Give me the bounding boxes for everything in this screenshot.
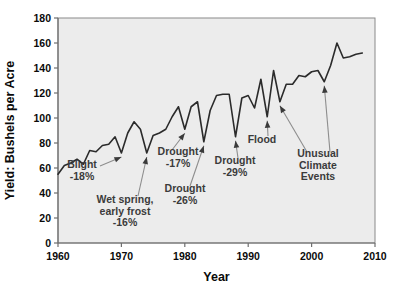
annotation-unusual-climate: UnusualClimateEvents bbox=[297, 147, 339, 182]
y-tick-label: 40 bbox=[39, 187, 51, 199]
y-tick-label: 140 bbox=[33, 62, 51, 74]
annotation-line: Flood bbox=[248, 133, 277, 145]
annotation-line: Climate bbox=[299, 159, 337, 171]
annotation-line: early frost bbox=[100, 205, 151, 217]
x-tick-label: 2010 bbox=[363, 250, 387, 262]
x-tick-label: 1960 bbox=[46, 250, 70, 262]
yield-line-chart: 020406080100120140160180 196019701980199… bbox=[0, 0, 393, 286]
y-axis-tick-labels: 020406080100120140160180 bbox=[33, 12, 51, 249]
annotation-line: Wet spring, bbox=[97, 193, 154, 205]
annotation-flood: Flood bbox=[248, 133, 277, 145]
y-tick-label: 20 bbox=[39, 212, 51, 224]
annotation-line: -16% bbox=[113, 216, 138, 228]
x-tick-label: 2000 bbox=[300, 250, 324, 262]
y-tick-label: 80 bbox=[39, 137, 51, 149]
y-tick-label: 180 bbox=[33, 12, 51, 24]
chart-container: 020406080100120140160180 196019701980199… bbox=[0, 0, 393, 286]
x-axis-title: Year bbox=[203, 270, 230, 284]
y-tick-label: 100 bbox=[33, 112, 51, 124]
x-tick-label: 1980 bbox=[173, 250, 197, 262]
annotation-line: -26% bbox=[173, 194, 198, 206]
x-axis-tick-labels: 196019701980199020002010 bbox=[46, 250, 387, 262]
annotation-line: Drought bbox=[158, 145, 199, 157]
y-tick-label: 120 bbox=[33, 87, 51, 99]
annotation-line: -18% bbox=[70, 170, 95, 182]
annotation-line: Drought bbox=[215, 154, 256, 166]
annotation-line: Drought bbox=[165, 182, 206, 194]
x-axis-ticks bbox=[58, 243, 375, 247]
annotation-line: -17% bbox=[166, 157, 191, 169]
x-tick-label: 1970 bbox=[110, 250, 134, 262]
annotation-line: Unusual bbox=[297, 147, 339, 159]
annotation-line: -29% bbox=[223, 166, 248, 178]
annotation-blight: Blight-18% bbox=[67, 158, 97, 182]
x-tick-label: 1990 bbox=[237, 250, 261, 262]
y-axis-title: Yield: Bushels per Acre bbox=[3, 61, 17, 200]
y-tick-label: 60 bbox=[39, 162, 51, 174]
annotation-line: Blight bbox=[67, 158, 97, 170]
y-tick-label: 160 bbox=[33, 37, 51, 49]
annotation-line: Events bbox=[301, 170, 336, 182]
y-tick-label: 0 bbox=[45, 237, 51, 249]
